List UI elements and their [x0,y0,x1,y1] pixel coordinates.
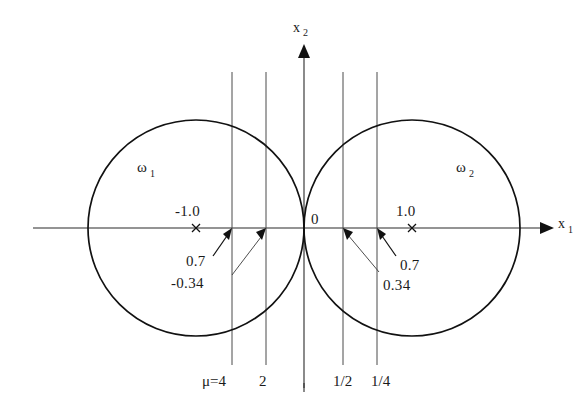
mu-label-2: 2 [259,373,267,389]
center-right-label: 1.0 [396,203,416,219]
right-arrow-034-shaft [348,235,379,272]
y-axis-arrowhead [298,44,310,58]
right-label-034: 0.34 [383,277,411,293]
omega-1-label-main: ω [137,159,147,175]
mu-label-4: μ=4 [202,373,227,389]
omega-1-label-subscript: 1 [150,168,155,179]
right-annotation-arrows [343,228,396,272]
left-label-07: 0.7 [186,253,206,269]
mu-label-1-4: 1/4 [371,373,391,389]
omega-1-label: ω 1 [137,159,155,179]
left-arrow-07-head [223,228,232,240]
x-axis-arrowhead [540,222,554,234]
axes-group [33,44,554,392]
omega-2-label-subscript: 2 [469,168,474,179]
left-arrow-034-shaft [232,237,261,275]
left-annotation-arrows [213,228,266,275]
x-axis-label-main: x [558,216,565,231]
left-arrow-034-head [256,228,266,240]
mu-label-1-2: 1/2 [333,373,352,389]
center-left-label: -1.0 [175,203,200,219]
figure-canvas: x 2 x 1 0 ω 1 ω 2 -1.0 1.0 0.7 -0.34 0.7… [0,0,586,416]
omega-2-label-main: ω [456,159,466,175]
right-arrow-07-head [377,228,386,240]
origin-label: 0 [311,211,319,227]
right-label-07: 0.7 [400,257,420,273]
left-label-034: -0.34 [171,275,204,291]
figure-container: x 2 x 1 0 ω 1 ω 2 -1.0 1.0 0.7 -0.34 0.7… [0,0,586,416]
x-axis-label-subscript: 1 [568,224,573,235]
omega-2-label: ω 2 [456,159,474,179]
right-arrow-034-head [343,228,353,240]
x-axis-label: x 1 [558,216,573,235]
y-axis-label-subscript: 2 [303,27,308,38]
y-axis-label-main: x [293,20,300,35]
y-axis-label: x 2 [293,20,308,38]
